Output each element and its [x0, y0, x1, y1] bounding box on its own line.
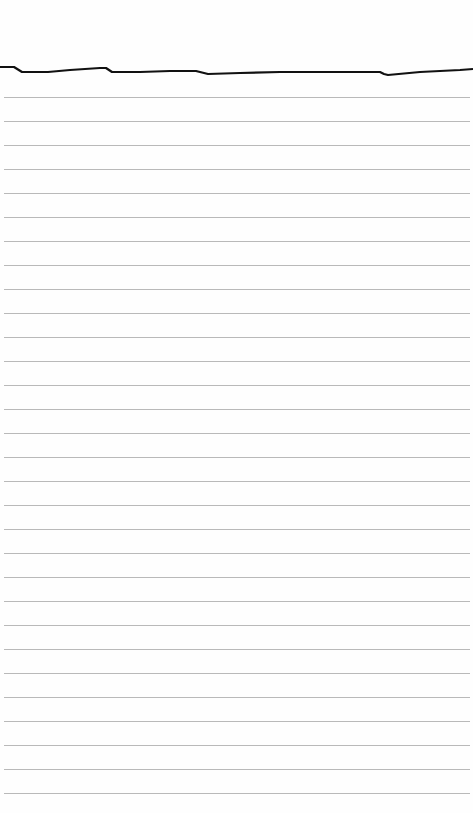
ruled-line [4, 193, 470, 194]
ruled-line [4, 337, 470, 338]
ruled-line [4, 649, 470, 650]
ruled-line [4, 481, 470, 482]
ruled-line [4, 409, 470, 410]
ruled-line [4, 577, 470, 578]
ruled-line [4, 97, 470, 98]
ruled-line [4, 313, 470, 314]
ruled-line [4, 145, 470, 146]
ruled-line [4, 385, 470, 386]
ruled-line [4, 169, 470, 170]
ruled-line [4, 265, 470, 266]
ruled-line [4, 217, 470, 218]
ruled-line [4, 697, 470, 698]
ruled-line [4, 745, 470, 746]
ruled-line [4, 361, 470, 362]
ruled-line [4, 601, 470, 602]
ruled-line [4, 721, 470, 722]
ruled-line [4, 433, 470, 434]
ruled-line [4, 289, 470, 290]
ruled-line [4, 529, 470, 530]
ruled-line [4, 625, 470, 626]
ruled-line [4, 793, 470, 794]
ruled-line [4, 553, 470, 554]
ruled-line [4, 505, 470, 506]
ruled-line [4, 121, 470, 122]
ruled-line [4, 241, 470, 242]
ruled-line [4, 457, 470, 458]
ruled-line [4, 673, 470, 674]
lined-paper-sheet [0, 0, 473, 813]
torn-top-edge [0, 0, 473, 100]
ruled-line [4, 769, 470, 770]
